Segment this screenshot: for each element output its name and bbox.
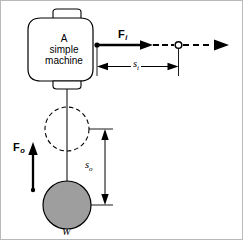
- bottom-tab-icon: [53, 81, 81, 89]
- machine-label-line-2: simple: [33, 44, 95, 55]
- machine-label: A simple machine: [33, 33, 95, 67]
- output-distance-subscript: o: [89, 165, 93, 173]
- simple-machine-diagram: A simple machine Fi si Fo so W: [0, 0, 243, 240]
- output-force-symbol: F: [13, 141, 20, 153]
- input-force-symbol: F: [118, 28, 125, 40]
- output-force-arrow: [28, 142, 37, 192]
- motion-direction-arrow: [183, 40, 229, 51]
- output-distance-label: so: [83, 159, 95, 171]
- machine-label-line-3: machine: [33, 55, 95, 66]
- output-force-subscript: o: [20, 146, 25, 155]
- input-force-label: Fi: [118, 28, 127, 40]
- weight-label: W: [62, 226, 71, 238]
- input-distance-subscript: i: [137, 64, 139, 72]
- final-position-open-circle: [175, 42, 182, 49]
- machine-label-line-1: A: [33, 33, 95, 44]
- output-force-label: Fo: [13, 141, 24, 153]
- output-distance-dimension-line: [101, 129, 108, 205]
- input-distance-label: si: [131, 58, 141, 70]
- weight-body-circle: [43, 181, 91, 229]
